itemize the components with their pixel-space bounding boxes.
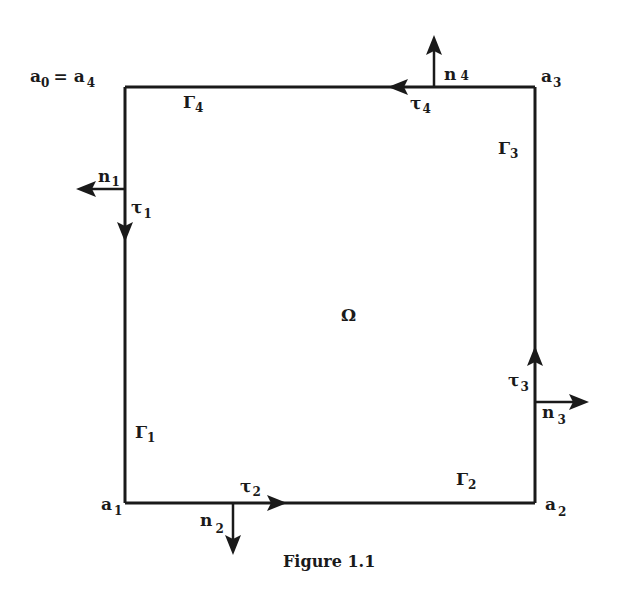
normal-label-n2: n2 bbox=[200, 510, 224, 536]
tangent-label-tau3: τ3 bbox=[508, 370, 529, 394]
normal-label-n3: n3 bbox=[542, 402, 566, 427]
domain-label-omega: Ω bbox=[341, 305, 356, 325]
tangent-label-tau4: τ4 bbox=[410, 93, 431, 116]
normal-label-n4: n4 bbox=[444, 64, 469, 84]
normal-arrow-n4 bbox=[426, 35, 442, 87]
vertex-label-a1: a1 bbox=[101, 494, 122, 518]
figure-canvas: a0=a4 a3 a1 a2 Γ4 Γ3 Γ1 Γ2 n1 n4 n3 n2 τ… bbox=[0, 0, 622, 596]
boundary-label-gamma4: Γ4 bbox=[183, 92, 203, 115]
figure-caption: Figure 1.1 bbox=[283, 552, 375, 571]
boundary-label-gamma3: Γ3 bbox=[498, 138, 518, 161]
tangent-label-tau1: τ1 bbox=[131, 197, 152, 221]
vertex-label-a2: a2 bbox=[545, 494, 566, 519]
vertex-label-a3: a3 bbox=[541, 66, 561, 90]
boundary-label-gamma2: Γ2 bbox=[456, 469, 476, 492]
normal-arrow-n2 bbox=[225, 503, 241, 555]
boundary-label-gamma1: Γ1 bbox=[135, 422, 155, 445]
vertex-label-a0-a4: a0=a4 bbox=[30, 66, 95, 90]
tangent-label-tau2: τ2 bbox=[240, 476, 261, 499]
normal-label-n1: n1 bbox=[98, 166, 120, 189]
domain-square bbox=[125, 87, 535, 503]
